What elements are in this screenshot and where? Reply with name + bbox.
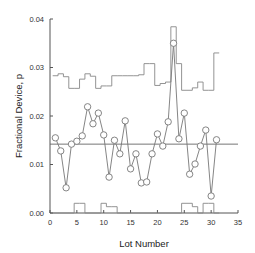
x-tick-label: 0 — [48, 218, 52, 227]
data-point-marker — [63, 185, 69, 191]
x-tick-label: 20 — [153, 218, 161, 227]
data-point-marker — [84, 104, 90, 110]
x-tick-label: 5 — [75, 218, 79, 227]
data-point-marker — [117, 151, 123, 157]
y-axis-title: Fractional Device, p — [13, 74, 24, 158]
data-point-marker — [165, 119, 171, 125]
data-point-marker — [101, 132, 107, 138]
x-tick-label: 25 — [180, 218, 188, 227]
data-point-marker — [127, 166, 133, 172]
x-tick-label: 30 — [207, 218, 215, 227]
data-point-marker — [154, 131, 160, 137]
data-point-marker — [74, 138, 80, 144]
data-point-marker — [186, 171, 192, 177]
data-point-marker — [213, 137, 219, 143]
data-point-marker — [133, 151, 139, 157]
data-point-marker — [106, 174, 112, 180]
y-tick-label: 0.00 — [29, 209, 44, 218]
y-tick-label: 0.01 — [29, 160, 44, 169]
data-point-marker — [176, 136, 182, 142]
data-point-marker — [143, 179, 149, 185]
x-axis-title: Lot Number — [119, 238, 169, 249]
data-point-marker — [111, 137, 117, 143]
data-point-marker — [197, 143, 203, 149]
data-series — [52, 40, 220, 199]
x-tick-label: 10 — [100, 218, 108, 227]
data-point-marker — [90, 121, 96, 127]
y-tick-label: 0.04 — [29, 15, 44, 24]
data-point-marker — [79, 133, 85, 139]
data-point-marker — [52, 135, 58, 141]
ucl-step-line — [53, 27, 220, 91]
data-point-marker — [95, 110, 101, 116]
data-point-marker — [170, 40, 176, 46]
x-tick-label: 35 — [234, 218, 242, 227]
data-point-marker — [122, 118, 128, 124]
data-point-marker — [208, 193, 214, 199]
data-point-marker — [181, 110, 187, 116]
lcl-step-line — [53, 203, 220, 213]
y-tick-label: 0.03 — [29, 63, 44, 72]
data-point-marker — [192, 161, 198, 167]
data-point-marker — [203, 127, 209, 133]
p-chart: 0.000.010.020.030.0405101520253035 Lot N… — [0, 0, 255, 253]
y-tick-label: 0.02 — [29, 112, 44, 121]
control-limits — [53, 27, 220, 213]
data-point-marker — [149, 151, 155, 157]
x-tick-label: 15 — [126, 218, 134, 227]
data-point-marker — [160, 143, 166, 149]
data-point-marker — [58, 148, 64, 154]
